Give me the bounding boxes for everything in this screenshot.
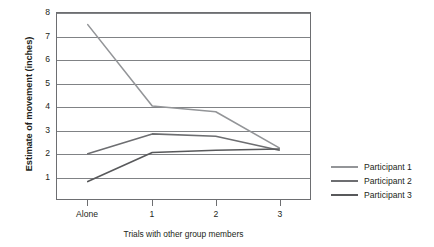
legend-label-3: Participant 3 [364, 191, 412, 200]
y-tick-label-3: 3 [36, 126, 50, 135]
y-tick-label-1: 1 [36, 173, 50, 182]
legend-item-2: Participant 2 [331, 174, 412, 188]
legend-swatch-icon-2 [331, 180, 358, 182]
x-tick-label-1: 1 [122, 210, 182, 219]
series-line-3 [88, 149, 279, 182]
legend: Participant 1Participant 2Participant 3 [331, 160, 412, 202]
x-axis-title: Trials with other group members [56, 229, 311, 239]
y-tick-label-8: 8 [36, 8, 50, 17]
y-tick-label-2: 2 [36, 149, 50, 158]
y-tick-label-6: 6 [36, 55, 50, 64]
x-tick-label-2: 2 [186, 210, 246, 219]
y-axis-title: Estimate of movement (inches) [24, 9, 34, 199]
y-tick-label-5: 5 [36, 79, 50, 88]
plot-area [56, 12, 311, 200]
x-tick-3 [280, 200, 281, 206]
legend-swatch-icon-3 [331, 194, 358, 196]
legend-item-3: Participant 3 [331, 188, 412, 202]
line-chart-figure: Estimate of movement (inches) 87654321 A… [0, 0, 434, 247]
x-tick-label-0: Alone [57, 210, 117, 219]
x-tick-label-3: 3 [250, 210, 310, 219]
legend-item-1: Participant 1 [331, 160, 412, 174]
y-tick-label-4: 4 [36, 102, 50, 111]
y-tick-label-7: 7 [36, 32, 50, 41]
x-tick-0 [87, 200, 88, 206]
series-lines [57, 13, 310, 199]
legend-label-2: Participant 2 [364, 177, 412, 186]
legend-label-1: Participant 1 [364, 163, 412, 172]
x-tick-1 [152, 200, 153, 206]
x-tick-2 [216, 200, 217, 206]
y-axis-tick-labels: 87654321 [34, 0, 50, 247]
series-line-1 [88, 25, 279, 148]
legend-swatch-icon-1 [331, 166, 358, 168]
